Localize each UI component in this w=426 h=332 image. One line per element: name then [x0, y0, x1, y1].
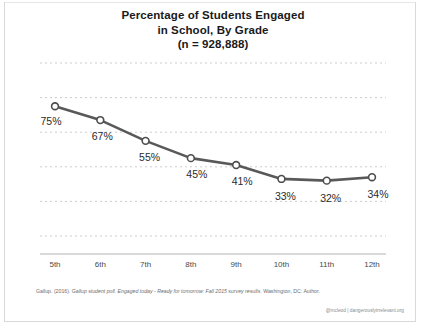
data-point-value-label: 75%	[40, 115, 61, 127]
data-point-value-label: 41%	[232, 175, 253, 187]
citation-italic-title: Gallup student poll. Engaged today - Rea…	[72, 288, 262, 294]
data-point-marker[interactable]	[97, 117, 104, 124]
data-point-value-label: 34%	[367, 188, 388, 200]
x-axis-tick-label: 8th	[185, 260, 196, 269]
data-point-value-label: 55%	[139, 151, 160, 163]
data-point-marker[interactable]	[323, 177, 330, 184]
source-citation: Gallup. (2016). Gallup student poll. Eng…	[36, 288, 396, 295]
data-point-value-label: 45%	[186, 168, 207, 180]
chart-card: Percentage of Students Engaged in School…	[0, 0, 426, 332]
citation-prefix: Gallup. (2016).	[36, 288, 72, 294]
data-point-value-label: 33%	[275, 190, 296, 202]
x-axis-tick-label: 10th	[274, 260, 290, 269]
x-axis-tick-label: 6th	[95, 260, 106, 269]
x-axis-tick-label: 5th	[49, 260, 60, 269]
line-chart-plot	[0, 0, 426, 332]
data-point-marker[interactable]	[233, 162, 240, 169]
x-axis-tick-label: 9th	[231, 260, 242, 269]
data-point-value-label: 32%	[320, 192, 341, 204]
citation-suffix: Washington, DC: Author.	[262, 288, 320, 294]
watermark-attribution: @mcleod | dangerouslyirrelevant.org	[326, 308, 404, 313]
data-point-marker[interactable]	[187, 155, 194, 162]
data-point-marker[interactable]	[278, 176, 285, 183]
gridlines	[40, 63, 386, 236]
data-point-marker[interactable]	[142, 137, 149, 144]
x-axis-tick-label: 12th	[364, 260, 380, 269]
data-point-value-label: 67%	[92, 130, 113, 142]
data-point-marker[interactable]	[369, 174, 376, 181]
data-point-marker[interactable]	[52, 103, 59, 110]
x-axis-tick-label: 7th	[140, 260, 151, 269]
x-axis-tick-label: 11th	[319, 260, 334, 269]
data-point-markers	[52, 103, 376, 184]
